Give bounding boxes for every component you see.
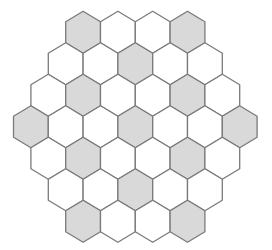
- hex-grid: [0, 0, 272, 250]
